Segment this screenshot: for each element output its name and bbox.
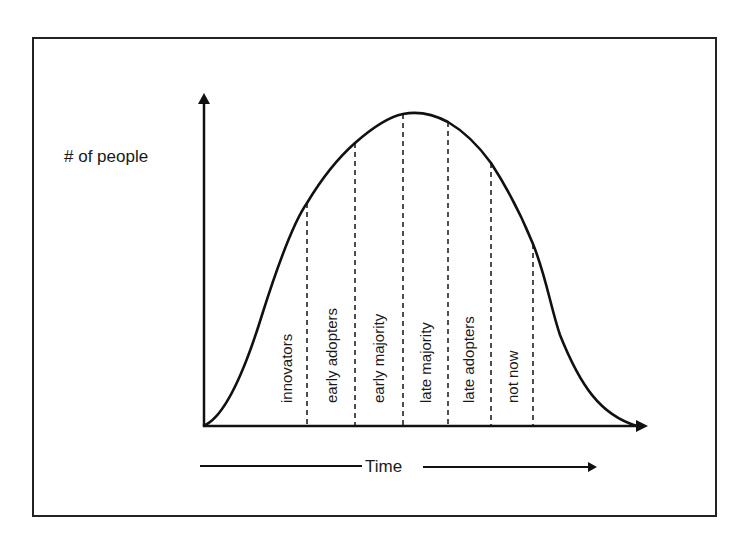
segment-labels: innovatorsearly adoptersearly majorityla…: [278, 308, 521, 403]
segment-label: late adopters: [460, 316, 477, 403]
diagram-frame: [33, 38, 716, 516]
time-arrow-icon: [588, 462, 597, 472]
segment-label: late majority: [417, 322, 434, 403]
segment-label: not now: [504, 350, 521, 403]
x-axis-label: Time: [365, 457, 402, 476]
segment-label: innovators: [278, 334, 295, 403]
segment-label: early majority: [370, 313, 387, 403]
y-axis-label: # of people: [64, 147, 148, 166]
y-axis-arrow-icon: [198, 93, 210, 104]
adoption-curve-diagram: innovatorsearly adoptersearly majorityla…: [0, 0, 745, 539]
x-axis-arrow-icon: [636, 420, 648, 432]
segment-label: early adopters: [323, 308, 340, 403]
x-axis: [203, 420, 648, 432]
time-arrow: Time: [200, 457, 597, 476]
y-axis: [198, 93, 210, 427]
